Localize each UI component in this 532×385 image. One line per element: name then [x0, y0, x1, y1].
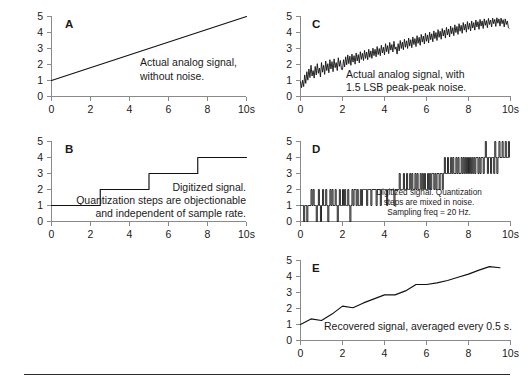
y-tick-label: 5 [286, 10, 292, 22]
x-tick-label: 0 [298, 228, 304, 240]
bottom-divider [24, 374, 510, 375]
y-tick-label: 0 [37, 215, 43, 227]
panel-letter-c: C [312, 18, 320, 30]
x-tick-label: 4 [127, 103, 133, 115]
y-tick-label: 0 [286, 334, 292, 346]
y-tick-label: 1 [37, 199, 43, 211]
panel-e: 5 4 3 2 1 0 0 2 4 6 8 10s E Recovered si… [285, 252, 530, 364]
panel-caption-d-line1: Digitized signal. Quantization [376, 188, 482, 197]
x-tick-label: 10s [502, 103, 519, 115]
x-tick-label: 4 [382, 103, 388, 115]
y-tick-label: 1 [286, 318, 292, 330]
x-tick-label: 8 [205, 103, 211, 115]
x-tick-label: 10s [238, 228, 255, 240]
panel-d-plot: 5 4 3 2 1 0 0 2 4 6 8 10s D Digitized si… [285, 133, 530, 245]
y-tick-label: 4 [286, 270, 292, 282]
panel-letter-b: B [65, 143, 73, 155]
panel-caption-c-line2: 1.5 LSB peak-peak noise. [346, 81, 466, 93]
y-tick-label: 1 [286, 199, 292, 211]
x-tick-label: 0 [49, 103, 55, 115]
panel-b-plot: 5 4 3 2 1 0 0 2 4 6 8 10s B Digitized si… [18, 133, 266, 245]
panel-letter-a: A [65, 18, 73, 30]
x-tick-label: 0 [298, 103, 304, 115]
panel-caption-d-line2: steps are mixed in noise. [384, 198, 475, 207]
panel-caption-b-line1: Digitized signal. [172, 181, 246, 193]
y-tick-label: 1 [37, 74, 43, 86]
y-tick-label: 1 [286, 74, 292, 86]
y-tick-label: 4 [286, 151, 292, 163]
x-tick-label: 4 [382, 347, 388, 359]
panel-letter-e: E [312, 262, 320, 274]
y-tick-label: 3 [286, 167, 292, 179]
x-tick-label: 2 [340, 228, 346, 240]
panel-caption-b-line3: and independent of sample rate. [95, 207, 246, 219]
panel-caption-a-line2: without noise. [139, 70, 204, 82]
x-tick-label: 6 [166, 228, 172, 240]
x-tick-label: 4 [382, 228, 388, 240]
x-tick-label: 0 [49, 228, 55, 240]
panel-b: 5 4 3 2 1 0 0 2 4 6 8 10s B Digitized si… [18, 133, 266, 245]
y-tick-label: 3 [286, 286, 292, 298]
x-tick-label: 10s [502, 347, 519, 359]
x-tick-label: 6 [424, 103, 430, 115]
panel-a: 5 4 3 2 1 0 0 2 4 6 8 10s A Actual analo… [18, 8, 266, 120]
x-tick-label: 2 [340, 347, 346, 359]
panel-a-plot: 5 4 3 2 1 0 0 2 4 6 8 10s A Actual analo… [18, 8, 266, 120]
y-tick-label: 3 [286, 42, 292, 54]
x-tick-label: 6 [424, 347, 430, 359]
y-tick-label: 3 [37, 167, 43, 179]
x-tick-label: 8 [466, 347, 472, 359]
panel-e-plot: 5 4 3 2 1 0 0 2 4 6 8 10s E Recovered si… [285, 252, 530, 364]
panel-caption-c-line1: Actual analog signal, with [346, 68, 465, 80]
x-tick-label: 2 [88, 228, 94, 240]
x-tick-label: 4 [127, 228, 133, 240]
panel-c: 5 4 3 2 1 0 0 2 4 6 8 10s C Actual analo… [285, 8, 530, 120]
y-tick-label: 4 [37, 151, 43, 163]
y-tick-label: 2 [286, 58, 292, 70]
panel-c-plot: 5 4 3 2 1 0 0 2 4 6 8 10s C Actual analo… [285, 8, 530, 120]
x-tick-label: 8 [466, 103, 472, 115]
y-tick-label: 5 [286, 254, 292, 266]
y-tick-label: 2 [286, 183, 292, 195]
y-tick-label: 0 [286, 215, 292, 227]
x-tick-label: 0 [298, 347, 304, 359]
panel-caption-e-line1: Recovered signal, averaged every 0.5 s. [324, 320, 512, 332]
y-tick-label: 5 [37, 135, 43, 147]
y-tick-label: 5 [37, 10, 43, 22]
panel-d: 5 4 3 2 1 0 0 2 4 6 8 10s D Digitized si… [285, 133, 530, 245]
figure-root: 5 4 3 2 1 0 0 2 4 6 8 10s A Actual analo… [0, 0, 532, 385]
y-tick-label: 2 [37, 183, 43, 195]
y-tick-label: 4 [286, 26, 292, 38]
y-tick-label: 5 [286, 135, 292, 147]
x-tick-label: 2 [88, 103, 94, 115]
x-tick-label: 10s [502, 228, 519, 240]
panel-letter-d: D [312, 143, 320, 155]
x-tick-label: 6 [166, 103, 172, 115]
y-tick-label: 0 [286, 90, 292, 102]
x-tick-label: 2 [340, 103, 346, 115]
y-tick-label: 4 [37, 26, 43, 38]
panel-caption-b-line2: Quantization steps are objectionable [76, 194, 246, 206]
signal-trace-e [301, 267, 501, 325]
y-tick-label: 2 [37, 58, 43, 70]
x-tick-label: 10s [238, 103, 255, 115]
x-tick-label: 8 [466, 228, 472, 240]
panel-caption-a-line1: Actual analog signal, [140, 56, 237, 68]
x-tick-label: 6 [424, 228, 430, 240]
y-tick-label: 2 [286, 302, 292, 314]
y-tick-label: 3 [37, 42, 43, 54]
panel-caption-d-line3: Sampling freq = 20 Hz. [387, 208, 471, 217]
y-tick-label: 0 [37, 90, 43, 102]
x-tick-label: 8 [205, 228, 211, 240]
